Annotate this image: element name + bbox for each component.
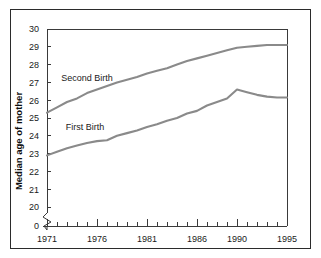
y-tick-label: 20 <box>29 202 39 212</box>
y-tick-label: 29 <box>29 42 39 52</box>
x-tick-label: 1995 <box>277 234 297 244</box>
y-axis-tick-labels: 3029282726252423222120 <box>29 24 39 212</box>
series-label-first-birth: First Birth <box>66 122 105 132</box>
x-axis-tick-marks <box>47 219 287 226</box>
x-axis-tick-labels: 197119761981198619901995 <box>37 234 297 244</box>
chart-frame: Median age of mother 3029282726252423222… <box>10 9 311 249</box>
x-tick-label: 1990 <box>227 234 247 244</box>
y-tick-label: 23 <box>29 149 39 159</box>
y-tick-label: 26 <box>29 96 39 106</box>
y-tick-label: 28 <box>29 60 39 70</box>
y-tick-label: 25 <box>29 113 39 123</box>
chart-figure: Median age of mother 3029282726252423222… <box>0 0 321 258</box>
y-axis-zero-label: 0 <box>34 221 39 231</box>
y-axis-title: Median age of mother <box>13 92 24 190</box>
y-tick-label: 22 <box>29 167 39 177</box>
series-annotation-group: Second BirthFirst Birth <box>61 73 113 133</box>
y-tick-label: 27 <box>29 78 39 88</box>
y-axis-tick-marks <box>47 29 51 207</box>
line-chart: Median age of mother 3029282726252423222… <box>11 10 310 248</box>
x-tick-label: 1971 <box>37 234 57 244</box>
data-series-group <box>47 45 287 155</box>
y-tick-label: 30 <box>29 24 39 34</box>
x-tick-label: 1986 <box>187 234 207 244</box>
x-tick-label: 1981 <box>137 234 157 244</box>
x-tick-label: 1976 <box>87 234 107 244</box>
y-tick-label: 21 <box>29 185 39 195</box>
series-label-second-birth: Second Birth <box>61 73 113 83</box>
y-tick-label: 24 <box>29 131 39 141</box>
